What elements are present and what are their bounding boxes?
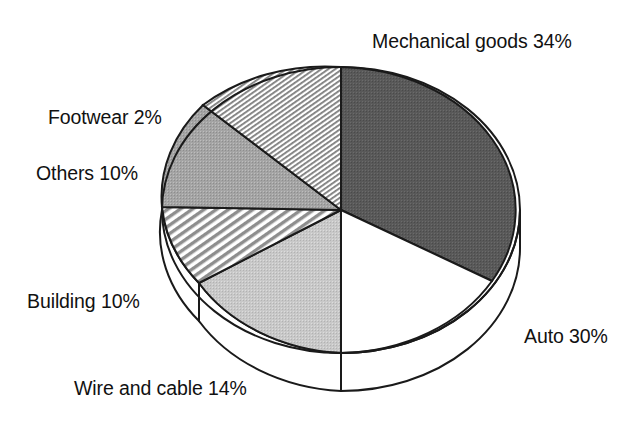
- pie-label-building: Building 10%: [27, 292, 140, 312]
- pie-chart-figure: Mechanical goods 34% Auto 30% Wire and c…: [0, 0, 631, 432]
- pie-label-footwear: Footwear 2%: [48, 108, 162, 128]
- pie-label-auto: Auto 30%: [524, 327, 608, 347]
- pie-label-wire-and-cable: Wire and cable 14%: [74, 379, 247, 399]
- pie-label-mechanical-goods: Mechanical goods 34%: [372, 32, 572, 52]
- pie-label-others: Others 10%: [36, 164, 138, 184]
- pie-chart-graphic: Mechanical goods 34% Auto 30% Wire and c…: [0, 0, 631, 432]
